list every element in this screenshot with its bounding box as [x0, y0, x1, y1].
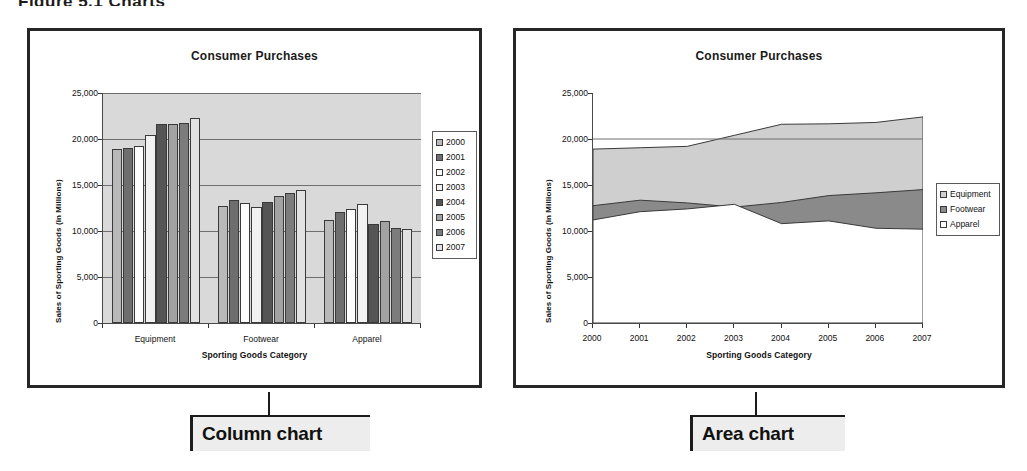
x-tick-label: 2007: [906, 333, 938, 343]
legend-swatch-icon: [436, 169, 443, 176]
y-tick-label: 20,000: [548, 134, 588, 144]
bar: [296, 190, 307, 323]
x-tick-mark: [875, 324, 876, 328]
bar: [274, 196, 285, 323]
y-tick-label: 25,000: [58, 88, 98, 98]
column-chart-callout-label: Column chart: [202, 423, 322, 445]
column-chart-callout-stem: [268, 392, 270, 416]
bar: [229, 200, 240, 323]
bar: [168, 124, 179, 323]
legend-label: 2003: [446, 183, 465, 192]
legend-label: 2001: [446, 153, 465, 162]
column-chart-frame: Consumer Purchases Sales of Sporting Goo…: [27, 28, 482, 388]
x-tick-mark: [208, 324, 209, 328]
x-tick-label: 2001: [623, 333, 655, 343]
area-chart-callout-stem: [755, 392, 757, 416]
area-chart-y-axis-title: Sales of Sporting Goods (in Millions): [544, 179, 553, 323]
column-chart-x-axis-title: Sporting Goods Category: [30, 350, 479, 360]
legend-label: Apparel: [950, 220, 979, 229]
bar: [368, 224, 379, 323]
area-chart-callout-label: Area chart: [702, 423, 794, 445]
area-chart-legend[interactable]: EquipmentFootwearApparel: [936, 183, 1000, 236]
area-chart-callout: Area chart: [690, 415, 845, 451]
legend-label: Equipment: [950, 190, 991, 199]
x-tick-mark: [102, 324, 103, 328]
bar: [123, 148, 134, 323]
legend-swatch-icon: [436, 199, 443, 206]
bar: [145, 135, 156, 323]
legend-label: 2004: [446, 198, 465, 207]
column-chart-y-axis-title: Sales of Sporting Goods (in Millions): [54, 179, 63, 323]
x-tick-mark: [592, 324, 593, 328]
legend-item[interactable]: Apparel: [940, 217, 995, 232]
x-tick-mark: [733, 324, 734, 328]
bar: [391, 228, 402, 323]
legend-swatch-icon: [940, 206, 947, 213]
y-tick-label: 20,000: [58, 134, 98, 144]
bar: [251, 207, 262, 323]
gridline: [103, 93, 421, 94]
area-chart-title: Consumer Purchases: [516, 49, 1002, 63]
bar: [380, 221, 391, 323]
legend-swatch-icon: [436, 244, 443, 251]
column-chart-title: Consumer Purchases: [30, 49, 479, 63]
x-tick-label: 2002: [670, 333, 702, 343]
bar: [190, 118, 201, 323]
legend-swatch-icon: [436, 184, 443, 191]
x-tick-label: 2003: [717, 333, 749, 343]
legend-item[interactable]: 2003: [436, 180, 472, 195]
bar: [285, 193, 296, 323]
x-category-label: Apparel: [314, 334, 420, 344]
legend-swatch-icon: [940, 191, 947, 198]
legend-label: 2002: [446, 168, 465, 177]
x-tick-mark: [781, 324, 782, 328]
column-chart-legend[interactable]: 20002001200220032004200520062007: [432, 131, 477, 259]
bar: [156, 124, 167, 323]
bar: [240, 203, 251, 323]
bar: [134, 146, 145, 323]
x-tick-label: 2004: [765, 333, 797, 343]
column-chart-callout: Column chart: [190, 415, 370, 451]
legend-item[interactable]: Equipment: [940, 187, 995, 202]
legend-item[interactable]: 2001: [436, 150, 472, 165]
x-category-label: Footwear: [208, 334, 314, 344]
x-tick-mark: [420, 324, 421, 328]
figure-caption-fragment: Figure 5.1 Charts: [18, 0, 165, 6]
area-chart-plot-area: [592, 93, 923, 324]
figure-page: Figure 5.1 Charts Consumer Purchases Sal…: [0, 0, 1027, 471]
area-chart-series-svg: [593, 93, 923, 323]
legend-item[interactable]: Footwear: [940, 202, 995, 217]
x-tick-label: 2005: [812, 333, 844, 343]
y-tick-label: 15,000: [548, 180, 588, 190]
x-tick-mark: [314, 324, 315, 328]
x-tick-mark: [686, 324, 687, 328]
x-tick-mark: [922, 324, 923, 328]
bar: [179, 123, 190, 323]
area-chart-frame: Consumer Purchases Sales of Sporting Goo…: [513, 28, 1005, 388]
y-tick-label: 25,000: [548, 88, 588, 98]
bar: [357, 204, 368, 323]
x-category-label: Equipment: [102, 334, 208, 344]
legend-item[interactable]: 2005: [436, 210, 472, 225]
y-tick-label: 5,000: [548, 272, 588, 282]
y-tick-label: 15,000: [58, 180, 98, 190]
legend-label: 2005: [446, 213, 465, 222]
bar: [335, 212, 346, 323]
bar: [346, 209, 357, 323]
legend-item[interactable]: 2000: [436, 135, 472, 150]
column-chart-plot-area: [102, 93, 421, 324]
bar: [402, 229, 413, 323]
legend-item[interactable]: 2004: [436, 195, 472, 210]
legend-label: Footwear: [950, 205, 985, 214]
legend-item[interactable]: 2007: [436, 240, 472, 255]
legend-swatch-icon: [436, 139, 443, 146]
y-tick-label: 10,000: [548, 226, 588, 236]
legend-swatch-icon: [940, 221, 947, 228]
legend-swatch-icon: [436, 154, 443, 161]
bar: [112, 149, 123, 323]
legend-item[interactable]: 2002: [436, 165, 472, 180]
legend-swatch-icon: [436, 229, 443, 236]
legend-item[interactable]: 2006: [436, 225, 472, 240]
legend-label: 2006: [446, 228, 465, 237]
legend-label: 2000: [446, 138, 465, 147]
